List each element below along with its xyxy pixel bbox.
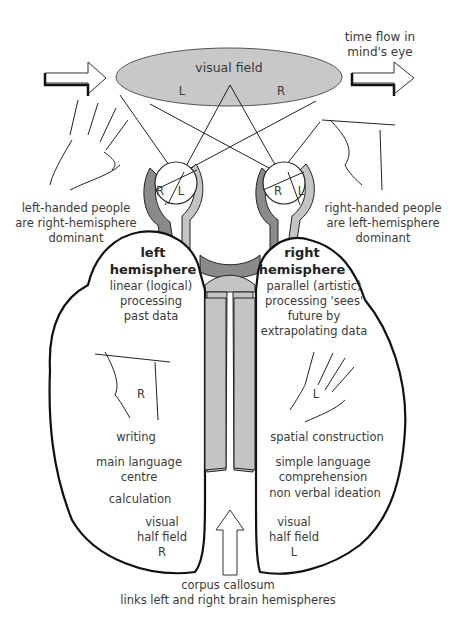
left-hand-sketch-top (50, 100, 128, 190)
right-hemisphere-hand-label: L (313, 387, 319, 402)
left-handed-caption: left-handed people are right-hemisphere … (15, 201, 136, 246)
visual-field-right-label: R (277, 84, 285, 99)
left-function-calculation: calculation (109, 492, 171, 507)
right-visual-half-field: visual half field L (269, 515, 319, 560)
left-visual-half-field: visual half field R (137, 515, 187, 560)
visual-field-ellipse (116, 48, 342, 106)
right-hemisphere-title: right hemisphere (259, 244, 345, 278)
visual-field-label: visual field (195, 60, 262, 75)
left-arrow-icon (45, 62, 106, 96)
brain-diagram-artwork (0, 0, 456, 631)
time-flow-caption: time flow in mind's eye (345, 30, 415, 60)
right-function-spatial: spatial construction (270, 430, 383, 445)
left-eye-r-label: R (156, 184, 164, 199)
right-eye-r-label: R (274, 184, 282, 199)
time-flow-arrow-icon (352, 62, 414, 96)
right-hand-sketch-top (322, 120, 395, 190)
left-function-writing: writing (116, 430, 156, 445)
right-function-nonverbal: non verbal ideation (269, 486, 381, 501)
right-handed-caption: right-handed people are left-hemisphere … (324, 201, 441, 246)
left-hemisphere-title: left hemisphere (110, 244, 196, 278)
left-function-language: main language centre (96, 455, 182, 485)
left-hemisphere-hand-label: R (137, 387, 145, 402)
corpus-callosum-caption: corpus callosum links left and right bra… (120, 578, 335, 608)
right-eye-l-label: L (298, 184, 304, 199)
right-hemisphere-description: parallel (artistic) processing 'sees' fu… (261, 279, 367, 339)
left-hemisphere-description: linear (logical) processing past data (110, 279, 192, 324)
right-function-language: simple language comprehension (275, 455, 370, 485)
corpus-callosum-arrow-icon (216, 510, 244, 575)
visual-field-left-label: L (179, 84, 185, 99)
left-eye-l-label: L (178, 184, 184, 199)
optic-chiasm (200, 255, 260, 292)
